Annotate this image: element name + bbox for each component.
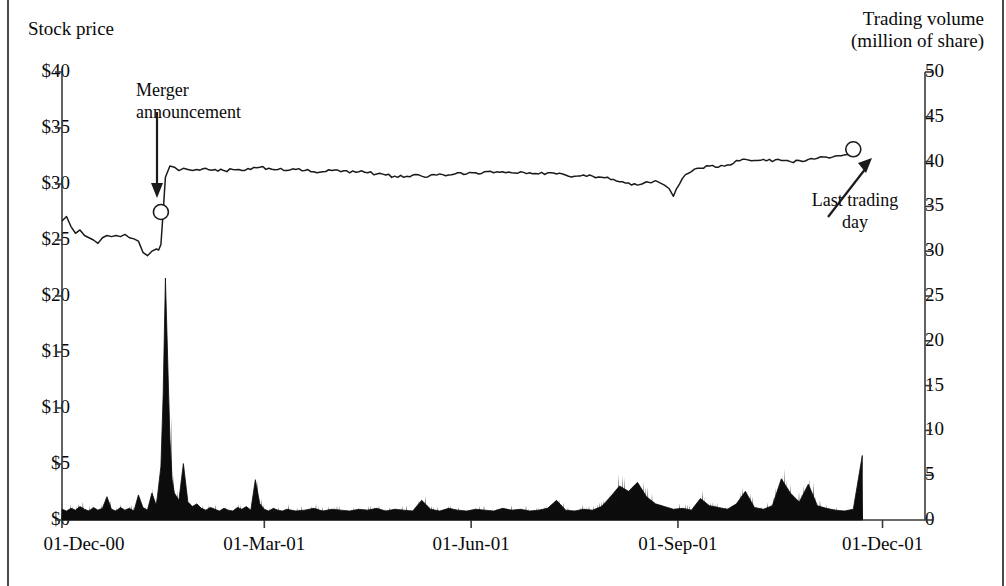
last-trading-day-marker [846,142,861,157]
last-trading-arrow-head [858,158,872,173]
merger-marker [153,205,168,220]
merger-arrow-head [151,183,163,198]
stock-price-line [62,154,853,256]
last-trading-arrow-shaft [828,168,866,217]
chart-plot [0,0,1006,586]
trading-volume-area [62,278,862,520]
